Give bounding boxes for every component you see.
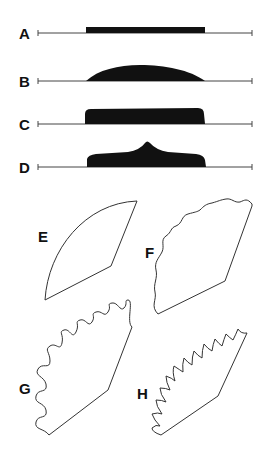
profile-shape-a (86, 27, 205, 33)
diagram-figure: A B C D E F G (0, 0, 267, 458)
sector-f: F (145, 199, 252, 314)
label-b: B (19, 73, 30, 90)
profile-a: A (19, 25, 252, 42)
profile-d: D (19, 142, 252, 177)
sector-shape-h (152, 329, 247, 435)
label-f: F (145, 244, 154, 261)
label-c: C (19, 116, 30, 133)
label-a: A (19, 25, 30, 42)
sector-shape-e (45, 201, 137, 300)
sector-h: H (137, 329, 247, 435)
sector-shape-f (154, 199, 252, 314)
sector-g: G (19, 300, 132, 435)
profile-shape-d (87, 142, 206, 168)
profile-b: B (19, 65, 252, 90)
label-h: H (137, 385, 148, 402)
profile-shape-b (86, 65, 205, 81)
label-e: E (38, 228, 48, 245)
sector-e: E (38, 201, 137, 300)
profile-c: C (19, 108, 252, 133)
sector-shape-g (36, 300, 132, 435)
label-d: D (19, 159, 30, 176)
profile-shape-c (85, 108, 205, 124)
label-g: G (19, 380, 31, 397)
